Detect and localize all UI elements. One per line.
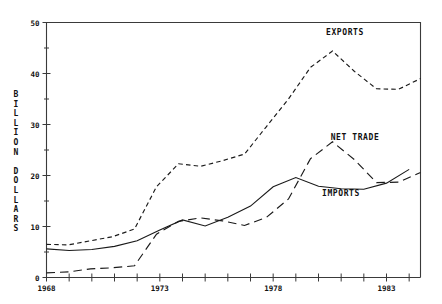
y-axis-title-char: O bbox=[14, 176, 19, 185]
y-axis-title-char: O bbox=[14, 138, 19, 147]
y-axis-title-char: L bbox=[14, 119, 19, 128]
series-annotation-exports: EXPORTS bbox=[326, 28, 364, 37]
y-axis-title-char: L bbox=[14, 186, 19, 195]
x-axis-tick-label: 1978 bbox=[264, 284, 283, 293]
series-annotation-net-trade: NET TRADE bbox=[331, 133, 380, 142]
y-axis-tick-label: 50 bbox=[30, 19, 40, 28]
series-annotation-imports: IMPORTS bbox=[322, 189, 360, 198]
y-axis-title-char: L bbox=[14, 109, 19, 118]
series-line-exports bbox=[47, 51, 421, 245]
y-axis-title-char: A bbox=[14, 205, 19, 214]
y-axis-tick-label: 0 bbox=[35, 274, 40, 283]
y-axis-title-char: D bbox=[14, 167, 19, 176]
y-axis-tick-label: 20 bbox=[30, 172, 40, 181]
x-axis-tick-label: 1968 bbox=[37, 284, 56, 293]
plot-frame bbox=[47, 23, 421, 278]
y-axis-title-char: S bbox=[14, 224, 19, 233]
y-axis-tick-label: 10 bbox=[30, 223, 40, 232]
y-axis-tick-label: 40 bbox=[30, 70, 40, 79]
y-axis-title-char: B bbox=[14, 90, 19, 99]
y-axis-title-char: I bbox=[14, 100, 19, 109]
series-line-net-trade bbox=[47, 142, 421, 273]
y-axis-title-char: N bbox=[14, 148, 19, 157]
line-chart: 010203040501968197319781983BILLIONDOLLAR… bbox=[0, 0, 442, 304]
x-axis-tick-label: 1973 bbox=[151, 284, 170, 293]
y-axis-tick-label: 30 bbox=[30, 121, 40, 130]
x-axis-tick-label: 1983 bbox=[377, 284, 396, 293]
y-axis-title-char: L bbox=[14, 196, 19, 205]
y-axis-title-char: I bbox=[14, 128, 19, 137]
y-axis-title-char: R bbox=[14, 215, 19, 224]
chart-container: 010203040501968197319781983BILLIONDOLLAR… bbox=[0, 0, 442, 304]
